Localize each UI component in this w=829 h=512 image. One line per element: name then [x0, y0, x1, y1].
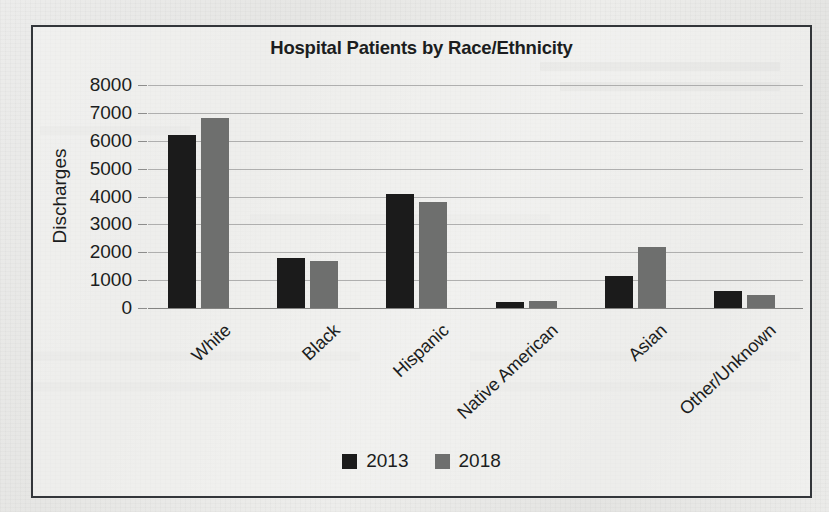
bar-other-unknown-2018[interactable]: [747, 295, 775, 308]
legend-label-2013: 2013: [366, 450, 408, 472]
bar-other-unknown-2013[interactable]: [714, 291, 742, 308]
y-axis-tick-mark: [138, 113, 147, 114]
y-axis-tick-mark: [138, 308, 147, 309]
y-axis-tick-mark: [138, 197, 147, 198]
bar-group: [714, 85, 775, 308]
legend-label-2018: 2018: [459, 450, 501, 472]
bar-native-american-2013[interactable]: [496, 302, 524, 308]
gridline: [148, 197, 803, 198]
y-axis-tick-label: 5000: [33, 158, 132, 180]
bar-hispanic-2018[interactable]: [419, 202, 447, 308]
bar-native-american-2018[interactable]: [529, 301, 557, 308]
bar-asian-2018[interactable]: [638, 247, 666, 308]
legend-swatch-2018: [435, 454, 450, 469]
chart-container: Hospital Patients by Race/Ethnicity Disc…: [31, 25, 812, 498]
y-axis-tick-label: 7000: [33, 102, 132, 124]
bar-black-2013[interactable]: [277, 258, 305, 308]
bar-hispanic-2013[interactable]: [386, 194, 414, 308]
gridline: [148, 85, 803, 86]
plot-area: [148, 85, 803, 308]
y-axis-tick-mark: [138, 85, 147, 86]
x-axis-label-asian: Asian: [625, 320, 672, 366]
gridline: [148, 308, 803, 309]
gridline: [148, 169, 803, 170]
y-axis-tick-mark: [138, 224, 147, 225]
legend-item-2013[interactable]: 2013: [342, 450, 408, 472]
gridline: [148, 113, 803, 114]
x-axis-label-native-american: Native American: [453, 320, 562, 424]
gridline: [148, 280, 803, 281]
bar-group: [277, 85, 338, 308]
bar-white-2018[interactable]: [201, 118, 229, 308]
bar-black-2018[interactable]: [310, 261, 338, 308]
bar-group: [496, 85, 557, 308]
chart-legend: 20132018: [33, 450, 810, 472]
x-axis-label-hispanic: Hispanic: [389, 320, 453, 382]
y-axis-tick-mark: [138, 280, 147, 281]
y-axis-tick-label: 8000: [33, 74, 132, 96]
bar-group: [605, 85, 666, 308]
y-axis-tick-label: 3000: [33, 213, 132, 235]
y-axis-tick-label: 2000: [33, 241, 132, 263]
chart-title: Hospital Patients by Race/Ethnicity: [33, 37, 810, 59]
x-axis-label-white: White: [187, 320, 235, 366]
bar-group: [168, 85, 229, 308]
bar-group: [386, 85, 447, 308]
gridline: [148, 141, 803, 142]
legend-item-2018[interactable]: 2018: [435, 450, 501, 472]
gridline: [148, 252, 803, 253]
bar-white-2013[interactable]: [168, 135, 196, 308]
y-axis-tick-label: 4000: [33, 186, 132, 208]
x-axis-label-black: Black: [298, 320, 344, 365]
gridline: [148, 224, 803, 225]
bar-asian-2013[interactable]: [605, 276, 633, 308]
y-axis-tick-label: 1000: [33, 269, 132, 291]
y-axis-tick-label: 0: [33, 297, 132, 319]
y-axis-tick-mark: [138, 169, 147, 170]
x-axis-label-other-unknown: Other/Unknown: [676, 320, 781, 420]
legend-swatch-2013: [342, 454, 357, 469]
y-axis-tick-label: 6000: [33, 130, 132, 152]
y-axis-tick-mark: [138, 141, 147, 142]
y-axis-tick-mark: [138, 252, 147, 253]
